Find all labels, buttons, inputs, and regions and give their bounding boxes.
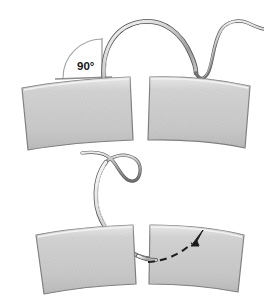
bottom-tissue-flap-left <box>36 225 136 294</box>
tissue-shading <box>148 77 250 148</box>
figure-canvas: 90° <box>0 0 264 301</box>
surgical-suture-figure: 90° <box>0 0 264 301</box>
top-tissue-flap-left <box>22 77 133 150</box>
top-tissue-flap-right <box>148 77 250 148</box>
angle-label: 90° <box>77 60 95 72</box>
